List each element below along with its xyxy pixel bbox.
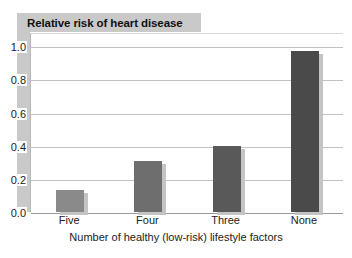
chart-title: Relative risk of heart disease <box>22 17 183 29</box>
x-axis-tick-labels: FiveFourThreeNone <box>30 214 343 230</box>
plot-area: 0.00.20.40.60.81.0 <box>30 33 343 212</box>
bar-series <box>31 34 343 212</box>
x-axis-tick-label: None <box>291 214 317 226</box>
bar[interactable] <box>291 51 319 212</box>
chart-figure: Relative risk of heart disease 0.00.20.4… <box>0 0 352 258</box>
bar[interactable] <box>213 146 241 212</box>
bar[interactable] <box>134 161 162 212</box>
y-axis-tick-label: 0.2 <box>10 174 27 186</box>
x-axis-tick-label: Five <box>59 214 80 226</box>
y-axis-tick-label: 0.4 <box>10 141 27 153</box>
bar-column[interactable] <box>56 34 84 212</box>
x-axis-title: Number of healthy (low-risk) lifestyle f… <box>0 231 352 243</box>
y-axis-tick-label: 1.0 <box>10 41 27 53</box>
bar-column[interactable] <box>134 34 162 212</box>
x-axis-tick-label: Three <box>211 214 240 226</box>
bar[interactable] <box>56 190 84 212</box>
x-axis-tick-label: Four <box>136 214 159 226</box>
bar-column[interactable] <box>213 34 241 212</box>
bar-column[interactable] <box>291 34 319 212</box>
y-axis-tick-label: 0.6 <box>10 108 27 120</box>
chart-title-banner: Relative risk of heart disease <box>22 13 201 32</box>
y-axis-tick-label: 0.8 <box>10 74 27 86</box>
y-axis-tick-label: 0.0 <box>10 207 27 219</box>
